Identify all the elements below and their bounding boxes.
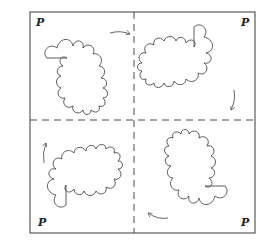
leaf-bottom-right <box>165 130 228 205</box>
leaf-top-left <box>45 39 108 114</box>
corner-label-top-left: P <box>35 16 45 29</box>
corner-label-bottom-right: P <box>240 216 250 229</box>
leaf-top-right <box>138 25 213 88</box>
outer-frame <box>30 12 255 233</box>
corner-label-bottom-left: P <box>37 216 47 229</box>
arrow-left-icon <box>148 213 168 218</box>
corner-label-top-right: P <box>240 16 250 29</box>
leaf-rotation-diagram: P P P P <box>0 0 270 247</box>
arrow-up-icon <box>43 143 46 163</box>
leaf-bottom-left <box>47 145 122 208</box>
arrow-right-icon <box>110 32 130 34</box>
arrow-down-icon <box>231 90 235 110</box>
